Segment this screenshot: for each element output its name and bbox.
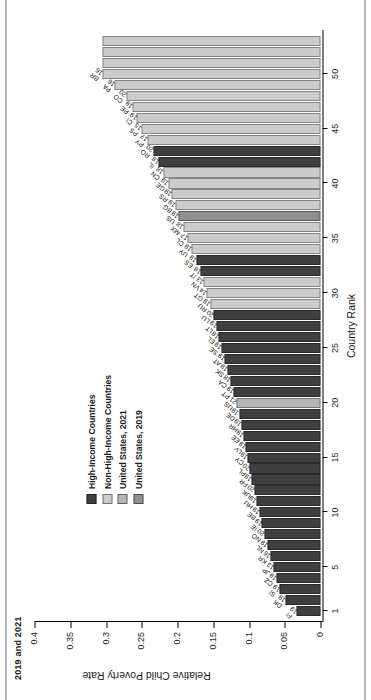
x-axis-tick-label: 40	[329, 168, 339, 198]
bar	[249, 463, 320, 473]
x-axis-tick	[322, 566, 327, 567]
bar	[187, 233, 320, 243]
bar	[102, 36, 320, 46]
bar	[245, 442, 320, 452]
bar	[243, 431, 320, 441]
x-axis-tick	[322, 402, 327, 403]
plot-area	[34, 30, 320, 622]
legend-swatch	[86, 494, 96, 504]
bar	[203, 277, 320, 287]
x-axis-tick-label: 50	[329, 59, 339, 89]
x-axis-tick	[322, 610, 327, 611]
y-axis-tick	[141, 622, 142, 628]
y-axis-tick	[34, 622, 35, 628]
y-axis-tick	[106, 622, 107, 628]
y-axis-tick	[320, 622, 321, 628]
x-axis-tick-label: 30	[329, 278, 339, 308]
bar	[102, 58, 320, 68]
x-axis-line	[322, 30, 323, 622]
x-axis-tick-label: 1	[329, 596, 339, 626]
bar-series	[34, 30, 320, 622]
figure-canvas: 2019 and 2021 00.050.10.150.20.250.30.35…	[0, 0, 371, 700]
y-axis-tick-label: 0	[314, 632, 324, 678]
bar	[141, 124, 320, 134]
bar	[279, 584, 320, 594]
bar	[163, 167, 320, 177]
legend-label: United States, 2019	[133, 410, 143, 489]
y-axis-tick	[249, 622, 250, 628]
legend-item: United States, 2019	[133, 375, 143, 504]
x-axis-tick-label: 25	[329, 333, 339, 363]
bar	[200, 266, 320, 276]
legend: High-Income CountriesNon-High-Income Cou…	[86, 375, 148, 504]
legend-item: Non-High-Income Countries	[102, 375, 112, 504]
y-axis-tick-label: 0.05	[278, 632, 288, 678]
x-axis-tick	[322, 73, 327, 74]
bar	[221, 343, 320, 353]
bar	[241, 420, 320, 430]
x-axis-title: Country Rank	[344, 30, 356, 622]
bar	[153, 146, 320, 156]
bar	[267, 540, 320, 550]
page-rule-bottom	[364, 0, 365, 700]
bar	[196, 255, 320, 265]
bar	[296, 606, 320, 616]
bar	[216, 321, 320, 331]
x-axis-tick	[322, 237, 327, 238]
bar	[254, 485, 320, 495]
bar	[270, 551, 320, 561]
bar	[256, 496, 320, 506]
bar	[276, 573, 320, 583]
bar	[224, 354, 320, 364]
x-axis-tick-label: 10	[329, 497, 339, 527]
bar	[227, 365, 320, 375]
x-axis-tick	[322, 182, 327, 183]
bar	[218, 332, 320, 342]
x-axis-tick	[322, 511, 327, 512]
y-axis-tick	[284, 622, 285, 628]
bar	[285, 595, 320, 605]
bar	[171, 189, 320, 199]
bar	[175, 200, 320, 210]
bar	[236, 398, 320, 408]
bar	[264, 529, 320, 539]
bar	[132, 102, 320, 112]
bar	[147, 135, 320, 145]
page-rule-top	[5, 0, 6, 700]
bar	[261, 518, 320, 528]
legend-swatch	[133, 494, 143, 504]
x-axis-tick	[322, 128, 327, 129]
bar	[239, 409, 321, 419]
bar	[210, 299, 320, 309]
bar	[102, 69, 320, 79]
legend-label: United States, 2021	[117, 410, 127, 489]
legend-swatch	[102, 494, 112, 504]
bar	[178, 211, 320, 221]
legend-item: United States, 2021	[117, 375, 127, 504]
x-axis-tick-label: 45	[329, 114, 339, 144]
legend-label: High-Income Countries	[86, 394, 96, 489]
legend-swatch	[117, 494, 127, 504]
x-axis-tick-label: 20	[329, 388, 339, 418]
y-axis-tick	[70, 622, 71, 628]
bar	[183, 222, 320, 232]
legend-item: High-Income Countries	[86, 375, 96, 504]
bar	[233, 387, 320, 397]
legend-label: Non-High-Income Countries	[102, 375, 112, 489]
x-axis-tick-label: 35	[329, 223, 339, 253]
bar	[136, 113, 320, 123]
bar	[251, 474, 320, 484]
bar	[114, 80, 320, 90]
x-axis-tick	[322, 292, 327, 293]
bar	[259, 507, 320, 517]
x-axis-tick	[322, 457, 327, 458]
bar	[126, 91, 320, 101]
bar	[247, 453, 320, 463]
y-axis-tick	[213, 622, 214, 628]
bar	[230, 376, 320, 386]
bar	[158, 157, 320, 167]
y-axis-tick	[177, 622, 178, 628]
bar	[102, 47, 320, 57]
x-axis-tick-label: 5	[329, 552, 339, 582]
bar	[206, 288, 320, 298]
